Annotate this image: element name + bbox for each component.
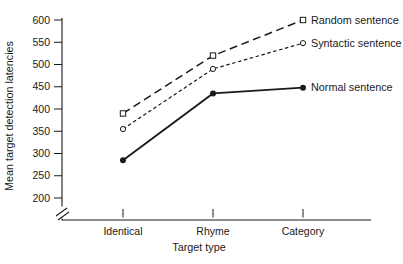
y-tick-label: 250 bbox=[32, 169, 50, 181]
series-label-normal-sentence: Normal sentence bbox=[311, 81, 393, 93]
line-chart-figure: 200250300350400450500550600IdenticalRhym… bbox=[0, 0, 403, 264]
y-tick-label: 400 bbox=[32, 103, 50, 115]
y-tick-label: 550 bbox=[32, 36, 50, 48]
y-tick-label: 200 bbox=[32, 192, 50, 204]
marker-random-sentence-identical bbox=[120, 111, 125, 116]
y-tick-label: 350 bbox=[32, 125, 50, 137]
x-category-label-rhyme: Rhyme bbox=[196, 225, 229, 237]
y-axis-title: Mean target detection latencies bbox=[3, 40, 15, 191]
chart-canvas: 200250300350400450500550600IdenticalRhym… bbox=[0, 0, 403, 264]
marker-random-sentence-rhyme bbox=[210, 53, 215, 58]
y-tick-label: 300 bbox=[32, 147, 50, 159]
marker-normal-sentence-category bbox=[300, 85, 306, 91]
y-tick-label: 500 bbox=[32, 58, 50, 70]
series-line-normal-sentence bbox=[123, 88, 303, 161]
plot-area: 200250300350400450500550600IdenticalRhym… bbox=[32, 14, 401, 237]
marker-normal-sentence-identical bbox=[120, 157, 126, 163]
x-axis-title: Target type bbox=[172, 241, 225, 253]
marker-syntactic-sentence-category bbox=[300, 41, 305, 46]
y-tick-label: 450 bbox=[32, 80, 50, 92]
x-category-label-category: Category bbox=[282, 225, 325, 237]
series-label-syntactic-sentence: Syntactic sentence bbox=[311, 37, 402, 49]
marker-syntactic-sentence-identical bbox=[120, 126, 125, 131]
marker-syntactic-sentence-rhyme bbox=[210, 66, 215, 71]
marker-random-sentence-category bbox=[300, 17, 305, 22]
series-label-random-sentence: Random sentence bbox=[311, 14, 399, 26]
marker-normal-sentence-rhyme bbox=[210, 90, 216, 96]
x-category-label-identical: Identical bbox=[103, 225, 142, 237]
y-tick-label: 600 bbox=[32, 14, 50, 26]
